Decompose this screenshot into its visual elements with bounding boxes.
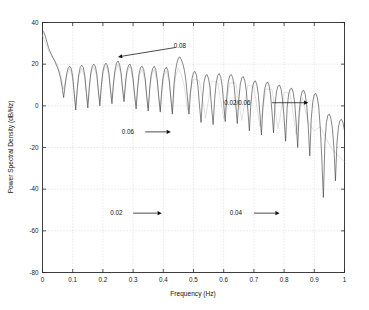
annotation-label: 0.08: [174, 42, 187, 49]
x-tick-label: 0.3: [129, 276, 138, 283]
y-axis-label: Power Spectral Density (dB/Hz): [7, 101, 15, 194]
annotation-label: 0.02: [110, 209, 123, 216]
x-tick-label: 0.1: [68, 276, 77, 283]
x-axis-label: Frequency (Hz): [170, 290, 215, 298]
y-tick-label: 20: [31, 60, 39, 67]
x-tick-label: 0.4: [159, 276, 168, 283]
figure-canvas: 0.080.060.02/0.060.020.04 00.10.20.30.40…: [0, 0, 369, 310]
y-tick-label: 40: [31, 19, 39, 26]
y-tick-label: -60: [29, 227, 39, 234]
y-tick-label: -20: [29, 144, 39, 151]
x-tick-label: 0: [41, 276, 45, 283]
y-tick-label: 0: [35, 102, 39, 109]
grid-lines: [43, 23, 345, 273]
annotation-label: 0.06: [122, 128, 135, 135]
psd-chart: 0.080.060.02/0.060.020.04 00.10.20.30.40…: [0, 0, 369, 310]
x-tick-label: 0.6: [219, 276, 228, 283]
x-tick-label: 1: [343, 276, 347, 283]
y-tick-label: -40: [29, 185, 39, 192]
tick-labels: 00.10.20.30.40.50.60.70.80.91-80-60-40-2…: [29, 19, 346, 283]
annotation-label: 0.02/0.06: [224, 99, 251, 106]
y-tick-label: -80: [29, 269, 39, 276]
x-tick-label: 0.7: [250, 276, 259, 283]
x-tick-label: 0.9: [310, 276, 319, 283]
annotations: 0.080.060.02/0.060.020.04: [110, 42, 308, 217]
x-tick-label: 0.8: [280, 276, 289, 283]
annotation-label: 0.04: [230, 209, 243, 216]
x-tick-label: 0.5: [189, 276, 198, 283]
x-tick-label: 0.2: [99, 276, 108, 283]
